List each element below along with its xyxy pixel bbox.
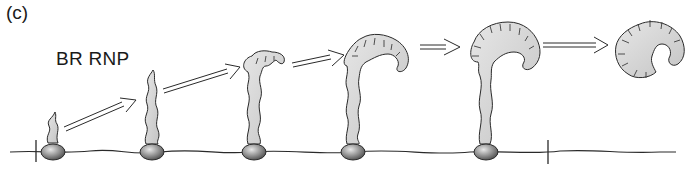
arrow-5-to-6 <box>543 37 608 53</box>
arrow-1-to-2 <box>64 98 136 131</box>
polymerase-1 <box>41 144 65 160</box>
arrow-4-to-5 <box>420 39 460 55</box>
rnp-stage-1 <box>41 112 65 160</box>
polymerase-2 <box>140 144 164 160</box>
arrow-2-to-3 <box>163 64 240 93</box>
arrow-3-to-4 <box>292 50 344 67</box>
rnp-stage-2 <box>140 70 164 160</box>
polymerase-5 <box>474 144 498 160</box>
rnp-stage-3 <box>242 51 284 160</box>
diagram-canvas <box>0 0 686 178</box>
rnp-stage-5 <box>471 22 540 160</box>
rnp-stage-4 <box>341 34 408 160</box>
polymerase-3 <box>242 144 266 160</box>
rnp-stage-6-released <box>615 20 684 79</box>
polymerase-4 <box>341 144 365 160</box>
